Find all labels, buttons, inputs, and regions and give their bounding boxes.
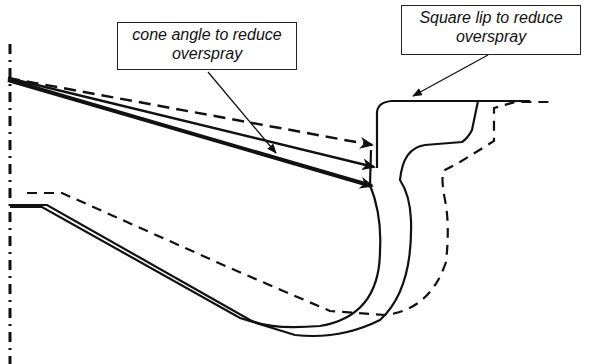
square-lip-callout-line1: Square lip to reduce (406, 8, 576, 27)
cone-angle-callout-line2: overspray (122, 44, 292, 63)
cone-angle-callout-line1: cone angle to reduce (122, 25, 292, 44)
square-lip-callout-line2: overspray (406, 27, 576, 46)
square-lip-leader (413, 55, 488, 96)
spray-line-solid-upper (8, 78, 374, 167)
square-lip-callout: Square lip to reduce overspray (401, 5, 581, 55)
inner-profile-solid (10, 150, 380, 327)
original-profile-dashed (27, 102, 552, 315)
inner-profile-solid-2 (10, 101, 530, 336)
cone-angle-callout: cone angle to reduce overspray (117, 22, 297, 70)
spray-line-solid-lower (8, 80, 372, 186)
